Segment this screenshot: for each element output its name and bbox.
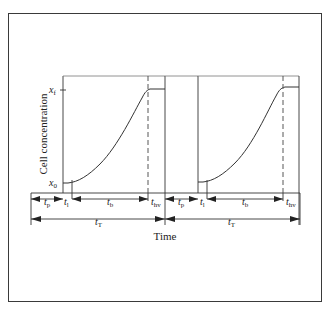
thv-label-2: thv bbox=[286, 196, 296, 209]
tp-label-2: tp bbox=[178, 196, 185, 209]
tT-label: tT bbox=[95, 216, 103, 229]
tl-label: tl bbox=[64, 196, 69, 209]
batch-cycle-diagram: Cell concentration xf x0 tp tl tb thv tT… bbox=[0, 0, 333, 313]
growth-curve-2 bbox=[198, 87, 299, 182]
y-axis-label: Cell concentration bbox=[37, 93, 49, 174]
x-axis-label: Time bbox=[154, 230, 177, 242]
growth-curve bbox=[63, 89, 165, 183]
tb-label: tb bbox=[107, 196, 114, 209]
thv-label: thv bbox=[151, 196, 161, 209]
tb-label-2: tb bbox=[242, 196, 249, 209]
total-cycle-arrows bbox=[31, 193, 300, 225]
tT-label-2: tT bbox=[228, 216, 236, 229]
tp-label: tp bbox=[44, 196, 51, 209]
cycle-panel-2 bbox=[165, 76, 299, 225]
tl-label-2: tl bbox=[200, 196, 205, 209]
x0-label: x0 bbox=[48, 177, 57, 190]
xf-label: xf bbox=[48, 84, 56, 97]
